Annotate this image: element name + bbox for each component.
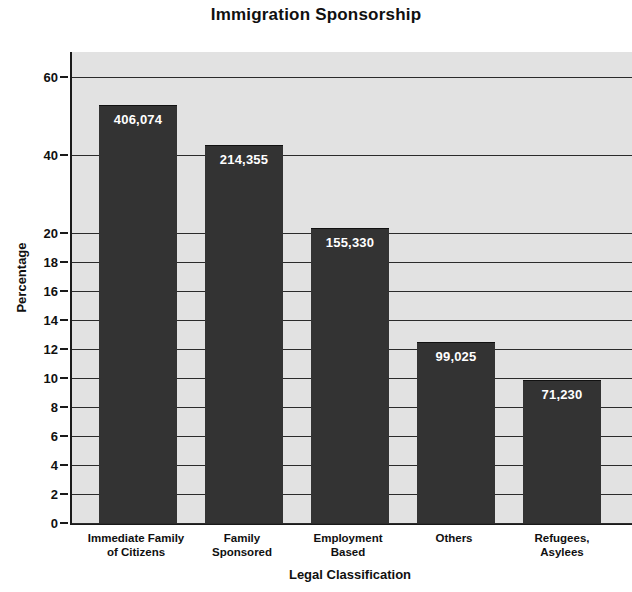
tick-mark [60, 348, 68, 350]
bar-value-label: 406,074 [99, 112, 177, 127]
y-axis-tick-label: 60 [10, 70, 58, 85]
tick-mark [60, 319, 68, 321]
gridline [72, 523, 632, 524]
category-label-line: Refugees, [494, 531, 630, 545]
tick-mark [60, 522, 68, 524]
tick-mark [60, 290, 68, 292]
category-label-line: Asylees [494, 545, 630, 559]
bar-value-label: 155,330 [311, 235, 389, 250]
tick-mark [60, 377, 68, 379]
bar[interactable]: 406,074 [99, 105, 177, 523]
y-axis-tick-label: 18 [10, 255, 58, 270]
y-axis-tick-label: 6 [10, 429, 58, 444]
tick-mark [60, 435, 68, 437]
immigration-sponsorship-bar-chart: Immigration Sponsorship Percentage 406,0… [0, 0, 632, 592]
y-axis-tick-label: 14 [10, 313, 58, 328]
tick-mark [60, 406, 68, 408]
plot-inner: 406,074214,355155,33099,02571,230 [72, 52, 632, 523]
tick-mark [60, 493, 68, 495]
y-axis-tick-label: 0 [10, 516, 58, 531]
tick-mark [60, 464, 68, 466]
category-label-line: Based [282, 545, 414, 559]
x-axis-category-label: Refugees,Asylees [494, 531, 630, 559]
x-axis-title: Legal Classification [70, 567, 630, 582]
bar[interactable]: 99,025 [417, 342, 495, 523]
y-axis-tick-label: 20 [10, 226, 58, 241]
y-axis-tick-label: 4 [10, 458, 58, 473]
y-axis-tick-label: 10 [10, 371, 58, 386]
plot-area: 406,074214,355155,33099,02571,230 [70, 52, 632, 525]
y-axis-tick-label: 12 [10, 342, 58, 357]
bar[interactable]: 155,330 [311, 228, 389, 523]
bar-value-label: 71,230 [523, 387, 601, 402]
chart-title: Immigration Sponsorship [0, 5, 632, 25]
y-axis-tick-label: 8 [10, 400, 58, 415]
tick-mark [60, 232, 68, 234]
tick-mark [60, 154, 68, 156]
y-axis-tick-label: 2 [10, 487, 58, 502]
tick-mark [60, 76, 68, 78]
y-axis-tick-label: 16 [10, 284, 58, 299]
y-axis-tick-label: 40 [10, 148, 58, 163]
bar-value-label: 214,355 [205, 152, 283, 167]
tick-mark [60, 261, 68, 263]
gridline [72, 77, 632, 78]
bar[interactable]: 214,355 [205, 145, 283, 523]
bar-value-label: 99,025 [417, 349, 495, 364]
bar[interactable]: 71,230 [523, 380, 601, 523]
